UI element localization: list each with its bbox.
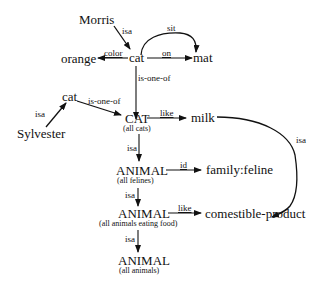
edge-label-like-milk: like (160, 109, 174, 118)
edge-label-color: color (104, 49, 123, 58)
edge-label-is-one-of-cat: is-one-of (138, 74, 171, 83)
edge-label-is-one-of-cat2: is-one-of (88, 97, 121, 106)
semantic-network-diagram: Morris cat orange mat cat Sylvester CAT … (0, 0, 323, 288)
edge-label-isa-eating: isa (125, 235, 135, 244)
edges-layer (0, 0, 323, 288)
edge-label-isa-morris: isa (122, 27, 132, 36)
edge-label-isa-felines: isa (125, 191, 135, 200)
node-comestible-product: comestible-product (205, 207, 305, 220)
node-orange: orange (61, 52, 96, 65)
node-family-feline: family:feline (206, 163, 273, 176)
node-milk: milk (191, 111, 215, 124)
edge-label-isa-sylvester: isa (35, 110, 45, 119)
node-mat: mat (193, 51, 213, 64)
node-sylvester: Sylvester (17, 127, 65, 140)
edge-label-isa-CAT: isa (127, 144, 137, 153)
edge-label-sit: sit (167, 24, 176, 33)
edge-label-like-comestible: like (178, 204, 192, 213)
edge-sylvester-isa-cat (46, 103, 66, 127)
node-cat-2: cat (62, 90, 77, 103)
node-CAT-sublabel: (all cats) (123, 125, 151, 133)
node-animal-all-sublabel: (all animals) (119, 267, 159, 275)
node-animal-felines-sublabel: (all felines) (117, 177, 154, 185)
edge-label-on: on (162, 49, 171, 58)
edge-label-id: id (180, 161, 187, 170)
node-animal-eating-sublabel: (all animals eating food) (99, 220, 177, 228)
node-cat: cat (129, 51, 144, 64)
node-morris: Morris (79, 13, 114, 26)
edge-label-isa-milk: isa (296, 136, 306, 145)
